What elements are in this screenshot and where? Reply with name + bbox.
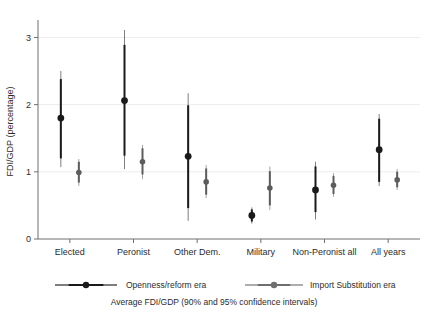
x-axis-label-2: Other Dem. (174, 247, 221, 257)
y-tick-label-2: 2 (26, 100, 31, 110)
data-point-marker (203, 179, 209, 185)
x-axis-label-0: Elected (55, 247, 85, 257)
y-tick-label-3: 3 (26, 33, 31, 43)
legend-label-1: Import Substitution era (310, 280, 396, 290)
x-axis-label-3: Military (247, 247, 276, 257)
data-point-marker (248, 212, 255, 219)
y-tick-label-0: 0 (26, 234, 31, 244)
fdi-gdp-confidence-interval-chart: 0123FDI/GDP (percentage)ElectedPeronistO… (0, 0, 429, 313)
data-point-marker (267, 185, 273, 191)
legend-marker-1 (271, 282, 277, 288)
x-axis-label-1: Peronist (117, 247, 151, 257)
data-point-marker (140, 159, 146, 165)
chart-container: 0123FDI/GDP (percentage)ElectedPeronistO… (0, 0, 429, 313)
y-tick-label-1: 1 (26, 167, 31, 177)
data-point-marker (76, 170, 82, 176)
data-point-marker (394, 177, 400, 183)
data-point-marker (185, 153, 192, 160)
data-point-marker (376, 146, 383, 153)
data-point-marker (331, 182, 337, 188)
data-point-marker (312, 187, 319, 194)
legend-marker-0 (83, 282, 89, 288)
x-axis-label-5: All years (371, 247, 406, 257)
data-point-marker (121, 97, 128, 104)
chart-caption: Average FDI/GDP (90% and 95% confidence … (111, 297, 318, 307)
legend-label-0: Openness/reform era (126, 280, 207, 290)
x-axis-label-4: Non-Peronist all (292, 247, 356, 257)
y-axis-title: FDI/GDP (percentage) (5, 87, 15, 177)
data-point-marker (57, 115, 64, 122)
